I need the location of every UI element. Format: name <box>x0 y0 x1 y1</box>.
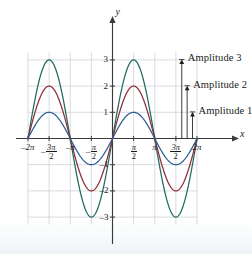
y-tick-label: 3 <box>104 55 109 64</box>
y-tick-label: –1 <box>100 160 109 169</box>
y-tick-label: –2 <box>100 186 109 195</box>
plot-canvas <box>0 0 252 254</box>
y-tick-label: 1 <box>104 108 109 117</box>
annotation-label-amp2: Amplitude 2 <box>193 80 247 91</box>
y-tick-label: 2 <box>104 82 109 91</box>
annotation-label-amp1: Amplitude 1 <box>199 106 252 117</box>
x-tick-label: –3π2 <box>41 143 57 161</box>
x-axis-arrowhead <box>232 135 239 141</box>
x-tick-label: π <box>152 143 157 152</box>
annotation-label-amp3: Amplitude 3 <box>188 53 242 64</box>
amplitude-arrow-group <box>179 60 195 139</box>
x-axis-label: x <box>240 129 244 139</box>
y-axis-label: y <box>116 7 120 17</box>
x-tick-label: 3π2 <box>170 143 181 161</box>
y-tick-label: –3 <box>100 213 109 222</box>
sine-amplitude-figure: y x –2π–3π2–π–π2π2π3π22π 321–1–2–3 Ampli… <box>0 0 252 254</box>
x-tick-label: π2 <box>131 143 137 161</box>
x-tick-label: –π2 <box>86 143 97 161</box>
x-tick-label: –2π <box>21 143 35 152</box>
x-tick-label: –π <box>66 143 75 152</box>
y-axis-arrowhead <box>109 16 115 23</box>
x-tick-label: 2π <box>193 143 202 152</box>
